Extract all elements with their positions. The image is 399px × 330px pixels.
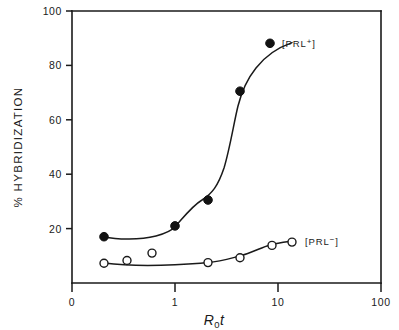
data-point-prl-negative-7 [288, 238, 296, 246]
y-tick-label-20: 20 [49, 223, 62, 235]
x-axis-ticks [72, 283, 381, 292]
series-label-prl-negative: [PRL−] [305, 235, 339, 248]
data-point-prl-positive-1 [100, 232, 109, 241]
data-point-prl-positive-2 [171, 222, 180, 231]
y-tick-label-80: 80 [49, 59, 62, 71]
series-prl-positive-curve [104, 43, 292, 239]
data-point-prl-negative-5 [236, 254, 244, 262]
y-tick-label-100: 100 [43, 5, 62, 17]
y-axis-title: % HYBRIDIZATION [12, 87, 24, 208]
y-tick-label-60: 60 [49, 114, 62, 126]
data-point-prl-negative-3 [148, 249, 156, 257]
data-point-prl-negative-1 [100, 259, 108, 267]
x-axis-tick-labels: 0 1 10 100 [69, 296, 391, 308]
data-point-prl-positive-5 [266, 39, 275, 48]
data-point-prl-negative-2 [123, 257, 131, 265]
data-point-prl-positive-3 [204, 196, 213, 205]
data-point-prl-negative-4 [204, 259, 212, 267]
data-point-prl-negative-6 [268, 241, 276, 249]
y-tick-label-40: 40 [49, 168, 62, 180]
x-tick-label-1: 1 [172, 296, 178, 308]
series-label-prl-positive-base: [PRL [282, 38, 307, 49]
data-point-prl-positive-4 [236, 87, 245, 96]
y-axis-tick-labels: 100 80 60 40 20 [43, 5, 62, 235]
series-label-prl-positive: [PRL+] [282, 37, 316, 50]
x-tick-label-10: 10 [272, 296, 285, 308]
x-tick-label-100: 100 [371, 296, 390, 308]
series-prl-positive: [PRL+] [100, 37, 316, 242]
series-label-prl-positive-close: ] [312, 38, 316, 49]
series-label-prl-negative-close: ] [335, 236, 339, 247]
x-axis-title: R0t [204, 312, 225, 330]
x-axis-title-base: R [204, 312, 215, 328]
x-axis-title-t: t [220, 312, 225, 328]
series-prl-negative-curve [104, 241, 292, 265]
series-label-prl-negative-base: [PRL [305, 236, 330, 247]
hybridization-chart: 100 80 60 40 20 0 1 10 100 % HYBRIDIZATI… [0, 0, 399, 330]
y-axis-ticks [66, 11, 72, 229]
x-tick-label-0: 0 [69, 296, 75, 308]
figure-container: 100 80 60 40 20 0 1 10 100 % HYBRIDIZATI… [0, 0, 399, 330]
